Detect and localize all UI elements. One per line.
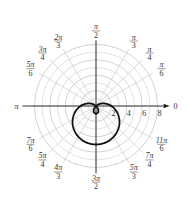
angle-label-denominator: 3: [56, 172, 60, 181]
angle-label-denominator: 3: [56, 41, 60, 50]
radial-tick-label: 4: [127, 109, 131, 118]
polar-plot: 0π6π4π3π22π33π45π6π7π65π44π33π25π37π411π…: [0, 0, 189, 216]
grid-spoke: [39, 73, 96, 106]
grid-spoke: [50, 106, 96, 152]
grid-spoke: [63, 106, 96, 163]
grid-spoke: [96, 60, 142, 106]
angle-label: π: [14, 102, 19, 111]
angle-label: 0: [174, 102, 178, 111]
grid-spoke: [50, 60, 96, 106]
angle-label-denominator: 6: [29, 69, 33, 78]
grid-spoke: [96, 106, 142, 152]
angle-label-denominator: 2: [94, 182, 98, 191]
grid-spoke: [63, 49, 96, 106]
grid-spoke: [96, 73, 153, 106]
radial-tick-label: 6: [142, 109, 146, 118]
angle-label-denominator: 3: [132, 41, 136, 50]
radial-tick-label: 8: [158, 109, 162, 118]
radial-tick-label: 2: [111, 109, 115, 118]
angle-label-denominator: 4: [41, 53, 45, 62]
angle-label-denominator: 6: [29, 144, 33, 153]
angle-label-denominator: 6: [159, 144, 163, 153]
grid-spoke: [39, 106, 96, 139]
angle-label-denominator: 4: [147, 53, 151, 62]
angle-label-denominator: 4: [41, 160, 45, 169]
axis-arrow-icon: [164, 104, 170, 108]
angle-label-denominator: 3: [132, 172, 136, 181]
grid-spoke: [96, 49, 129, 106]
angle-label-denominator: 4: [147, 160, 151, 169]
angle-label-denominator: 6: [159, 69, 163, 78]
angle-label-denominator: 2: [94, 31, 98, 40]
